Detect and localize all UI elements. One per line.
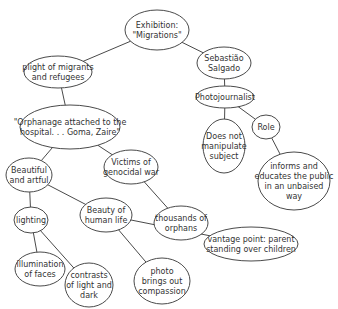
- node-role: Role: [252, 115, 280, 139]
- node-label-line: of faces: [24, 270, 55, 279]
- node-bubble: [258, 152, 330, 210]
- node-bubble: [154, 206, 208, 240]
- concept-map: Exhibition:"Migrations"plight of migrant…: [0, 0, 338, 309]
- node-exhibition: Exhibition:"Migrations": [125, 10, 189, 50]
- nodes-layer: Exhibition:"Migrations"plight of migrant…: [6, 10, 333, 307]
- node-label-line: and artful: [9, 176, 48, 185]
- node-label-line: Photojournalist: [195, 93, 255, 102]
- node-beautiful-artful: Beautifuland artful: [6, 158, 52, 192]
- node-label-line: Does not: [206, 132, 242, 141]
- node-bubble: [80, 198, 132, 232]
- node-label-line: plight of migrants: [22, 63, 93, 72]
- node-compassion: photobrings outcompassion: [134, 258, 190, 304]
- node-does-not-manipulate: Does notmanipulatesubject: [201, 119, 246, 173]
- node-label-line: in an unbaised: [265, 182, 324, 191]
- node-victims: Victims ofgenocidal war: [103, 150, 160, 184]
- node-label-line: "Orphanage attached to the: [14, 118, 127, 127]
- node-salgado: SebastiãoSalgado: [197, 47, 251, 79]
- node-label-line: informs and: [270, 162, 318, 171]
- node-label-line: brings out: [142, 277, 183, 286]
- node-label-line: dark: [80, 291, 98, 300]
- node-label-line: and refugees: [32, 73, 85, 82]
- node-orphanage: "Orphanage attached to thehospital. . . …: [14, 105, 127, 149]
- node-bubble: [104, 150, 158, 184]
- node-label-line: Role: [257, 123, 274, 132]
- node-label-line: Beauty of: [87, 206, 126, 215]
- node-label-line: subject: [210, 152, 239, 161]
- node-label-line: photo: [150, 267, 173, 276]
- node-bubble: [6, 158, 52, 192]
- node-label-line: Beautiful: [11, 166, 47, 175]
- node-label-line: Victims of: [111, 158, 151, 167]
- node-label-line: lighting: [16, 216, 46, 225]
- node-bubble: [20, 105, 120, 149]
- node-informs: informs andeducates the publicin an unba…: [255, 152, 334, 210]
- node-lighting: lighting: [14, 207, 48, 233]
- node-contrasts: contrastsof light anddark: [65, 263, 113, 307]
- node-bubble: [197, 47, 251, 79]
- node-bubble: [15, 252, 65, 286]
- node-label-line: of light and: [66, 281, 112, 290]
- node-beauty-human-life: Beauty ofhuman life: [80, 198, 132, 232]
- node-label-line: thousands of: [155, 214, 207, 223]
- node-thousands: thousands oforphans: [154, 206, 208, 240]
- node-label-line: standing over children: [206, 245, 296, 254]
- node-bubble: [204, 227, 298, 261]
- node-label-line: orphans: [165, 224, 197, 233]
- node-label-line: illumination: [16, 260, 63, 269]
- node-bubble: [125, 10, 189, 50]
- node-plight: plight of migrantsand refugees: [22, 56, 93, 88]
- node-bubble: [24, 56, 92, 88]
- node-label-line: Salgado: [208, 64, 240, 73]
- node-label-line: "Migrations": [132, 31, 181, 40]
- node-label-line: compassion: [138, 287, 186, 296]
- node-vantage: vantage point: parentstanding over child…: [204, 227, 298, 261]
- node-label-line: genocidal war: [103, 168, 160, 177]
- node-illumination: illuminationof faces: [15, 252, 65, 286]
- node-label-line: way: [286, 192, 302, 201]
- node-label-line: contrasts: [70, 271, 107, 280]
- node-label-line: educates the public: [255, 172, 334, 181]
- node-label-line: Exhibition:: [136, 21, 178, 30]
- node-label-line: manipulate: [201, 142, 246, 151]
- node-label-line: vantage point: parent: [207, 235, 294, 244]
- node-label-line: hospital. . . Goma, Zaire": [20, 128, 120, 137]
- node-photojournalist: Photojournalist: [195, 86, 255, 108]
- node-label-line: Sebastião: [204, 54, 243, 63]
- node-label-line: human life: [85, 216, 128, 225]
